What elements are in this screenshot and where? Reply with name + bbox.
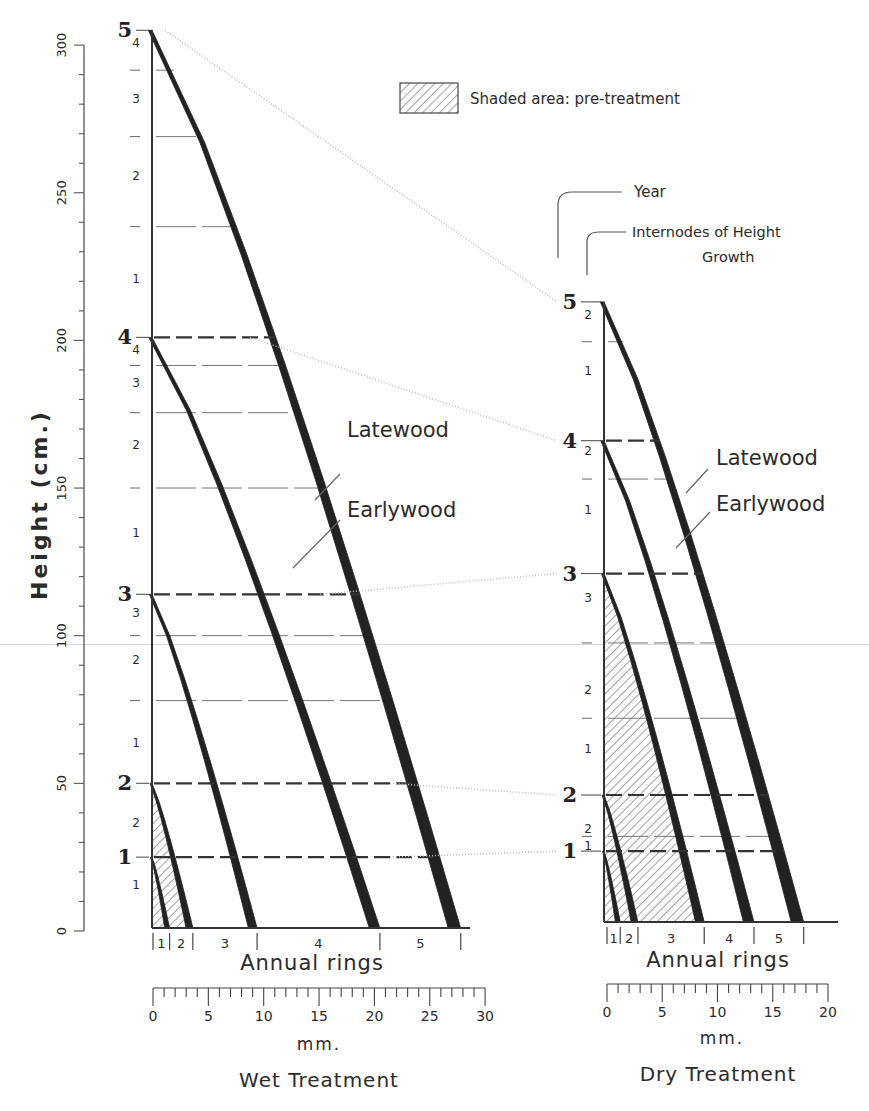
ring-number-label: 1 [609,931,617,946]
internode-label: 3 [132,606,140,620]
wet-mm-label: mm. [297,1034,342,1054]
mm-tick-label: 15 [764,1004,782,1020]
internode-label: 4 [132,36,140,50]
wet-earlywood-pointer [293,520,340,568]
year-label: 1 [117,844,132,869]
dry-latewood-pointer [686,469,708,493]
ring-number-label: 2 [625,931,633,946]
year-label: 1 [562,838,577,863]
year-connector-line [390,851,557,857]
callout [558,192,626,275]
internode-label: 1 [584,503,592,517]
internode-label: 1 [132,736,140,750]
internode-label: 3 [132,376,140,390]
internode-label: 4 [132,343,140,357]
year-label: 2 [562,782,577,807]
mm-tick-label: 0 [149,1008,158,1024]
dry-rings-label: Annual rings [646,948,790,972]
height-axis-label: Height (cm.) [27,409,52,600]
internode-label: 2 [132,816,140,830]
internode-label: 1 [132,272,140,286]
internodes-callout-label-2: Growth [702,249,755,265]
ring-number-label: 4 [725,931,733,946]
mm-tick-label: 0 [603,1004,612,1020]
mm-tick-label: 15 [310,1008,328,1024]
height-tick-label: 150 [54,476,69,501]
mm-tick-label: 5 [204,1008,213,1024]
dry-title: Dry Treatment [640,1062,797,1086]
internode-label: 2 [132,653,140,667]
legend-hatch-swatch [400,83,458,113]
mm-tick-label: 10 [709,1004,727,1020]
mm-tick-label: 20 [819,1004,837,1020]
legend: Shaded area: pre-treatment [400,83,680,113]
internode-label: 2 [132,438,140,452]
ring-number-label: 3 [667,931,675,946]
ring-number-label: 4 [314,936,322,951]
year-label: 3 [117,581,132,606]
legend-shaded-label: Shaded area: pre-treatment [470,90,680,108]
internode-label: 1 [584,742,592,756]
internodes-callout-line [587,232,626,275]
internode-label: 2 [584,308,592,322]
wet-rings-label: Annual rings [240,951,384,975]
year-label: 5 [562,289,577,314]
wet-title: Wet Treatment [239,1068,399,1092]
internode-label: 3 [584,591,592,605]
ring-number-label: 1 [157,936,165,951]
internode-label: 1 [584,839,592,853]
internodes-callout-label-1: Internodes of Height [632,224,781,240]
height-tick-label: 200 [54,328,69,353]
growth-diagram: Shaded area: pre-treatment Year Internod… [0,0,869,1111]
height-tick-label: 0 [54,927,69,935]
mm-tick-label: 25 [421,1008,439,1024]
internode-label: 2 [584,683,592,697]
mm-tick-label: 30 [476,1008,494,1024]
height-tick-label: 50 [54,775,69,792]
internode-label: 1 [132,878,140,892]
mm-tick-label: 5 [658,1004,667,1020]
height-tick-label: 250 [54,180,69,205]
wet-earlywood-label: Earlywood [347,498,456,522]
year-label: 2 [117,770,132,795]
dry-latewood-label: Latewood [716,446,818,470]
year-label: 3 [562,561,577,586]
ring-number-label: 5 [775,931,783,946]
mm-tick-label: 20 [365,1008,383,1024]
internode-label: 2 [132,169,140,183]
year-label: 5 [117,17,132,42]
internode-label: 2 [584,444,592,458]
ring-number-label: 3 [221,936,229,951]
dry-mm-label: mm. [700,1028,745,1048]
height-tick-label: 300 [54,33,69,58]
dry-treatment-panel: 123451212312121234505101520 [562,289,838,1020]
internode-label: 2 [584,822,592,836]
year-connector-line [165,30,557,302]
internode-label: 1 [584,364,592,378]
mm-tick-label: 10 [255,1008,273,1024]
year-connectors [165,30,557,857]
year-callout-line [558,192,622,258]
year-label: 4 [117,324,132,349]
height-axis: 050100150200250300 [54,33,84,935]
latewood-band-ring-4 [149,337,380,928]
year-label: 4 [562,428,577,453]
ring-number-label: 5 [416,936,424,951]
internode-label: 1 [132,526,140,540]
wet-latewood-label: Latewood [347,418,449,442]
ring-number-label: 2 [177,936,185,951]
year-callout-label: Year [633,183,667,201]
latewood-band-ring-5 [148,30,460,928]
dry-earlywood-label: Earlywood [716,492,825,516]
height-tick-label: 100 [54,623,69,648]
internode-label: 3 [132,92,140,106]
